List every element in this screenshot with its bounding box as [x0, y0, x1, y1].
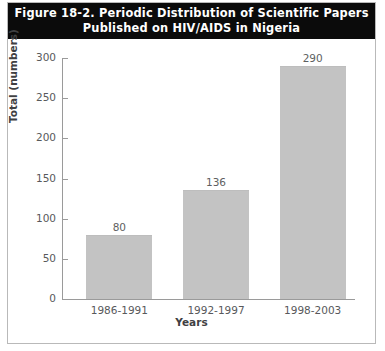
y-axis-tick-label: 200: [36, 131, 56, 143]
y-axis-tick-label: 0: [49, 292, 56, 304]
x-axis-category-label: 1986-1991: [91, 304, 148, 316]
y-axis-tick-label: 250: [36, 91, 56, 103]
figure-container: Figure 18-2. Periodic Distribution of Sc…: [7, 2, 376, 344]
bar-value-label: 80: [113, 221, 126, 233]
y-axis-title: Total (numbers): [7, 29, 19, 123]
y-axis-tick-mark: [63, 98, 68, 99]
y-axis-tick-mark: [63, 138, 68, 139]
x-axis-title: Years: [8, 316, 375, 328]
bar-value-label: 136: [206, 176, 226, 188]
figure-title-banner: Figure 18-2. Periodic Distribution of Sc…: [8, 3, 375, 39]
figure-title-line-1: Figure 18-2. Periodic Distribution of Sc…: [14, 6, 368, 21]
bar: 290: [280, 66, 346, 299]
y-axis-tick-label: 300: [36, 51, 56, 63]
x-axis-category-label: 1992-1997: [187, 304, 244, 316]
y-axis-tick-mark: [63, 179, 68, 180]
y-axis-tick-label: 100: [36, 212, 56, 224]
y-axis-tick-label: 150: [36, 172, 56, 184]
y-axis-tick-mark: [63, 299, 68, 300]
y-axis-tick-label: 50: [43, 252, 56, 264]
y-axis-tick-mark: [63, 219, 68, 220]
x-axis-category-label: 1998-2003: [284, 304, 341, 316]
bar: 80: [86, 235, 152, 299]
figure-title-line-2: Published on HIV/AIDS in Nigeria: [83, 21, 300, 36]
plot-area: 050100150200250300 80136290 1986-1991199…: [62, 58, 352, 300]
bar-value-label: 290: [303, 52, 323, 64]
x-axis-line: [62, 299, 355, 300]
y-axis-tick-mark: [63, 259, 68, 260]
y-axis-tick-mark: [63, 58, 68, 59]
bar: 136: [183, 190, 249, 299]
